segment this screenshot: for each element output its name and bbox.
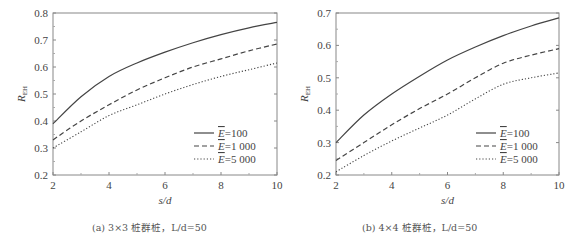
legend-entry: E=100 [217,127,248,139]
caption-panel-b: (b) 4×4 桩群桩，L/d=50 [362,220,477,234]
x-tick-label: 10 [272,179,284,191]
x-tick-label: 4 [389,179,395,191]
y-tick-label: 0.4 [34,115,48,127]
x-tick-label: 2 [50,179,56,191]
y-tick-label: 0.2 [34,169,48,181]
x-axis-label: s/d [441,194,454,206]
y-tick-label: 0.5 [317,72,331,84]
y-tick-label: 0.3 [317,137,331,149]
x-tick-label: 10 [554,179,566,191]
y-axis-label: REH [298,86,312,103]
legend-entry: E=100 [499,127,530,139]
y-tick-label: 0.3 [34,142,48,154]
caption-panel-a: (a) 3×3 桩群桩，L/d=50 [92,220,207,234]
legend-entry: E=5 000 [499,153,538,165]
chart-panel-a: 0.20.30.40.50.60.70.8246810s/dREHE=100E=… [15,7,283,206]
x-tick-label: 6 [162,179,168,191]
y-tick-label: 0.6 [317,39,331,51]
x-tick-label: 4 [106,179,112,191]
y-tick-label: 0.2 [317,169,331,181]
x-tick-label: 8 [218,179,224,191]
y-axis-label: REH [15,86,29,103]
y-tick-label: 0.7 [34,34,48,46]
chart-figure: 0.20.30.40.50.60.70.8246810s/dREHE=100E=… [0,0,571,241]
y-tick-label: 0.8 [34,7,48,19]
chart-panel-b: 0.20.30.40.50.60.7246810s/dREHE=100E=1 0… [298,7,565,206]
legend-entry: E=1 000 [217,140,256,152]
x-tick-label: 6 [445,179,451,191]
y-tick-label: 0.5 [34,88,48,100]
x-axis-label: s/d [159,194,172,206]
legend-entry: E=5 000 [217,153,256,165]
series-line-solid [53,22,277,123]
x-tick-label: 2 [333,179,339,191]
legend-entry: E=1 000 [499,140,538,152]
y-tick-label: 0.6 [34,61,48,73]
y-tick-label: 0.7 [317,7,331,19]
x-tick-label: 8 [501,179,507,191]
series-line-solid [336,18,559,143]
y-tick-label: 0.4 [317,104,331,116]
